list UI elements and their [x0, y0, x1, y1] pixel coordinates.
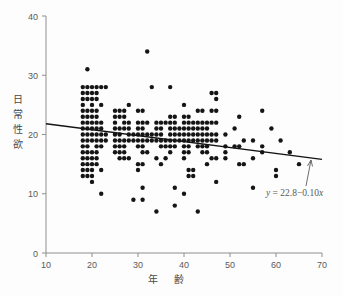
- data-point: [186, 150, 190, 154]
- data-point: [140, 120, 144, 124]
- data-point: [122, 115, 126, 119]
- data-point: [85, 109, 89, 113]
- data-point: [163, 156, 167, 160]
- data-point: [177, 126, 181, 130]
- data-point: [117, 115, 121, 119]
- x-tick-label: 30: [133, 260, 143, 270]
- data-point: [140, 138, 144, 142]
- data-point: [237, 162, 241, 166]
- data-point: [85, 85, 89, 89]
- annotation-leader-line: [306, 160, 313, 186]
- data-point: [117, 109, 121, 113]
- data-point: [237, 115, 241, 119]
- data-point: [85, 132, 89, 136]
- data-point: [205, 120, 209, 124]
- data-point: [242, 162, 246, 166]
- data-point: [182, 156, 186, 160]
- data-point: [154, 120, 158, 124]
- data-point: [81, 138, 85, 142]
- data-point: [200, 138, 204, 142]
- data-point: [182, 103, 186, 107]
- data-point: [85, 138, 89, 142]
- data-point: [150, 138, 154, 142]
- x-tick-label: 10: [41, 260, 51, 270]
- data-point: [85, 67, 89, 71]
- data-point: [214, 91, 218, 95]
- data-point: [177, 132, 181, 136]
- data-point: [113, 109, 117, 113]
- data-point: [94, 97, 98, 101]
- data-point: [186, 144, 190, 148]
- data-point: [154, 126, 158, 130]
- data-point: [85, 150, 89, 154]
- data-point: [145, 49, 149, 53]
- equation-intercept: 22.8: [280, 188, 297, 198]
- equation-slope: 0.10: [302, 188, 319, 198]
- data-point: [90, 109, 94, 113]
- data-point: [122, 120, 126, 124]
- data-point: [81, 91, 85, 95]
- data-point: [94, 109, 98, 113]
- data-point: [159, 162, 163, 166]
- data-point: [81, 168, 85, 172]
- data-point: [173, 126, 177, 130]
- data-point: [117, 144, 121, 148]
- data-point: [85, 156, 89, 160]
- data-point: [214, 97, 218, 101]
- data-point: [196, 132, 200, 136]
- data-point: [173, 203, 177, 207]
- data-point: [145, 150, 149, 154]
- data-point: [127, 103, 131, 107]
- data-point: [196, 209, 200, 213]
- data-point: [200, 120, 204, 124]
- y-axis-char-3: 性: [10, 122, 26, 137]
- y-tick-label: 0: [33, 249, 38, 259]
- data-point: [168, 115, 172, 119]
- data-point: [136, 109, 140, 113]
- data-point: [99, 132, 103, 136]
- x-tick-label: 50: [225, 260, 235, 270]
- data-point: [173, 132, 177, 136]
- y-tick-label: 20: [28, 130, 38, 140]
- data-point: [191, 174, 195, 178]
- data-point: [90, 150, 94, 154]
- data-point: [182, 126, 186, 130]
- y-axis-title: 日 常 性 欲: [10, 92, 26, 152]
- data-point: [159, 120, 163, 124]
- y-axis-char-1: 日: [10, 92, 26, 107]
- data-point: [81, 97, 85, 101]
- data-point: [81, 120, 85, 124]
- data-point: [269, 126, 273, 130]
- data-point: [251, 138, 255, 142]
- data-point: [209, 120, 213, 124]
- data-point: [205, 126, 209, 130]
- data-point: [200, 132, 204, 136]
- data-point: [127, 120, 131, 124]
- data-point: [168, 120, 172, 124]
- data-point: [140, 197, 144, 201]
- data-point: [150, 132, 154, 136]
- data-point: [90, 162, 94, 166]
- data-point: [196, 120, 200, 124]
- data-point: [191, 132, 195, 136]
- data-point: [136, 120, 140, 124]
- data-point: [150, 85, 154, 89]
- data-point: [168, 150, 172, 154]
- data-point: [136, 162, 140, 166]
- data-point: [127, 138, 131, 142]
- data-point: [122, 144, 126, 148]
- y-axis-char-2: 常: [10, 107, 26, 122]
- data-point: [205, 138, 209, 142]
- data-point: [81, 132, 85, 136]
- data-point: [81, 174, 85, 178]
- data-point: [90, 115, 94, 119]
- data-point: [85, 115, 89, 119]
- data-point: [81, 150, 85, 154]
- data-point: [90, 132, 94, 136]
- data-point: [278, 138, 282, 142]
- y-tick-label: 40: [28, 12, 38, 22]
- data-point: [90, 138, 94, 142]
- y-tick-label: 30: [28, 71, 38, 81]
- data-point: [94, 85, 98, 89]
- data-point: [186, 126, 190, 130]
